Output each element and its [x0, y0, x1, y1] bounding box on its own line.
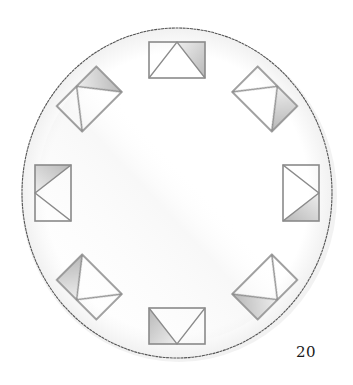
page-number: 20 [296, 343, 316, 361]
diagonal-sheen [37, 43, 317, 343]
circle-tiles-illustration [0, 0, 353, 385]
